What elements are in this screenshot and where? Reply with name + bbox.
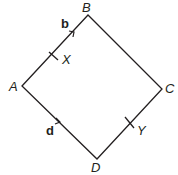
- vertex-a-label: A: [9, 80, 18, 93]
- vertex-b-label: B: [82, 1, 91, 14]
- point-x-label: X: [62, 53, 71, 66]
- parallelogram-diagram: [0, 0, 178, 175]
- tick-y: [125, 117, 134, 128]
- vertex-c-label: C: [165, 82, 174, 95]
- vector-d-label: d: [46, 124, 54, 137]
- vertex-d-label: D: [91, 161, 100, 174]
- vector-b-label: b: [61, 17, 69, 30]
- point-y-label: Y: [137, 124, 146, 137]
